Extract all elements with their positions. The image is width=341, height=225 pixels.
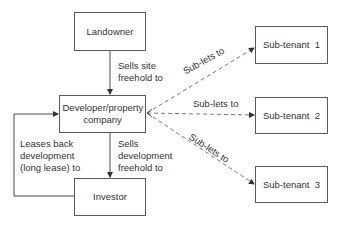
arrow-developer-subtenant2 xyxy=(147,113,254,115)
node-subtenant-2-label: Sub-tenant 2 xyxy=(263,110,320,122)
node-subtenant-1-label: Sub-tenant 1 xyxy=(263,39,320,51)
edge-label-line: Leases back xyxy=(20,138,80,150)
edge-label-sublets-2: Sub-lets to xyxy=(193,98,238,110)
edge-label-line: development xyxy=(20,150,80,162)
node-subtenant-2: Sub-tenant 2 xyxy=(255,97,328,134)
edge-label-line: Sells site xyxy=(118,60,163,72)
edge-label-sells-development: Sells development freehold to xyxy=(118,138,172,174)
node-developer: Developer/property company xyxy=(59,95,146,133)
node-investor-label: Investor xyxy=(93,191,127,203)
edge-label-line: (long lease) to xyxy=(20,162,80,174)
edge-label-line: Sells xyxy=(118,138,172,150)
node-subtenant-3-label: Sub-tenant 3 xyxy=(263,179,320,191)
node-subtenant-1: Sub-tenant 1 xyxy=(255,26,328,64)
node-investor: Investor xyxy=(74,178,146,216)
edge-label-sells-site: Sells site freehold to xyxy=(118,60,163,84)
diagram-canvas: Landowner Developer/property company Inv… xyxy=(0,0,341,225)
node-landowner-label: Landowner xyxy=(86,26,133,38)
edge-label-line: development xyxy=(118,150,172,162)
edge-label-line: freehold to xyxy=(118,162,172,174)
edge-label-line: freehold to xyxy=(118,72,163,84)
node-developer-label: Developer/property company xyxy=(63,102,143,126)
node-subtenant-3: Sub-tenant 3 xyxy=(255,166,328,203)
node-landowner: Landowner xyxy=(74,12,146,51)
edge-label-leases-back: Leases back development (long lease) to xyxy=(20,138,80,174)
